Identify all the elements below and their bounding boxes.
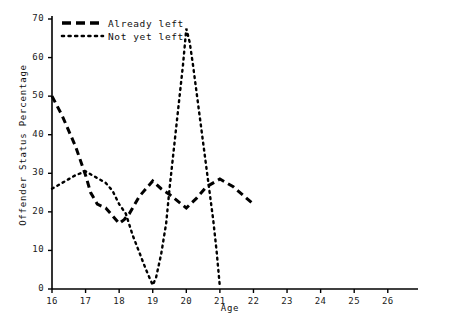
plot-area bbox=[0, 0, 460, 324]
axis-tick-marks bbox=[48, 19, 388, 293]
legend-swatches bbox=[62, 23, 103, 36]
data-series-layer bbox=[52, 29, 253, 287]
chart-figure: Offender Status Percentage Age 010203040… bbox=[0, 0, 460, 324]
axis-lines bbox=[52, 16, 418, 289]
series-line-already-left bbox=[52, 96, 253, 223]
series-line-not-yet-left bbox=[52, 29, 220, 287]
